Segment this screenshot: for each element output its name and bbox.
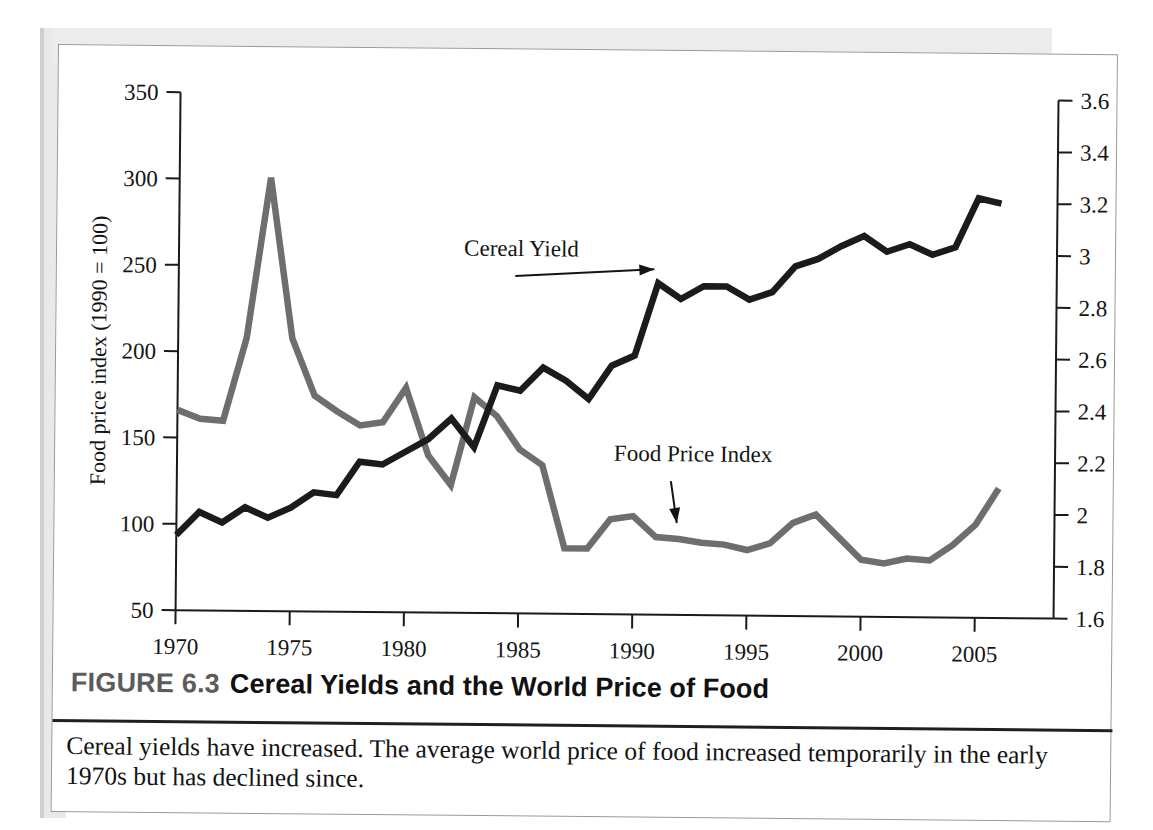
y-axis-left-tick-label: 200 — [121, 339, 156, 364]
y-axis-left-tick-label: 250 — [122, 252, 157, 277]
x-axis-tick-label: 1985 — [495, 637, 541, 662]
x-axis — [176, 610, 1054, 618]
y-axis-right-tick-label: 1.8 — [1076, 555, 1105, 580]
figure-title-row: FIGURE 6.3 Cereal Yields and the World P… — [71, 667, 1105, 721]
y-axis-left-tick-label: 50 — [130, 598, 153, 623]
x-axis-tick-label: 1995 — [723, 639, 769, 664]
y-axis-left-tick-labels: 50100150200250300350 — [119, 80, 159, 623]
annotation-arrowhead-food-price-index — [669, 507, 680, 523]
annotation-arrowhead-cereal-yield — [639, 264, 654, 275]
y-axis-left-tick-label: 100 — [120, 511, 155, 536]
y-axis-left-tick-label: 300 — [123, 166, 158, 191]
y-axis-right-tick-label: 1.6 — [1075, 607, 1104, 632]
annotation-arrow-cereal-yield — [515, 268, 654, 277]
chart-plot-area: 50100150200250300350 1.61.822.22.42.62.8… — [53, 45, 1119, 667]
y-axis-right-tick-label: 3.2 — [1079, 192, 1108, 217]
figure-number-label: FIGURE 6.3 — [71, 667, 220, 699]
x-axis-tick-label: 2005 — [951, 642, 997, 667]
x-axis-tick-label: 1980 — [380, 636, 426, 661]
x-axis-tick-label: 1990 — [609, 638, 655, 663]
y-axis-right-ticks — [1054, 101, 1073, 619]
figure-caption-block: FIGURE 6.3 Cereal Yields and the World P… — [52, 657, 1113, 823]
figure-title-rule — [52, 719, 1112, 732]
y-axis-left-tick-label: 350 — [124, 80, 159, 105]
y-axis-right-tick-label: 2.6 — [1078, 348, 1107, 373]
y-axis-right-tick-labels: 1.61.822.22.42.62.833.23.43.6 — [1075, 89, 1109, 632]
y-axis-right-tick-label: 3 — [1079, 244, 1091, 269]
x-axis-tick-label: 2000 — [837, 641, 883, 666]
figure-title: Cereal Yields and the World Price of Foo… — [230, 669, 769, 705]
y-axis-right-tick-label: 2.2 — [1077, 451, 1106, 476]
y-axis-right-tick-label: 2 — [1076, 503, 1088, 528]
x-axis-tick-label: 1970 — [152, 634, 198, 659]
annotation-label-food-price-index: Food Price Index — [614, 441, 773, 468]
y-axis-left-title: Food price index (1990 = 100) — [85, 215, 113, 485]
y-axis-right-tick-label: 2.8 — [1078, 296, 1107, 321]
figure-box: 50100150200250300350 1.61.822.22.42.62.8… — [51, 44, 1118, 822]
y-axis-right-tick-label: 3.6 — [1080, 89, 1109, 114]
scanned-page: 50100150200250300350 1.61.822.22.42.62.8… — [0, 0, 1153, 830]
y-axis-right-tick-label: 3.4 — [1080, 141, 1109, 166]
figure-caption-text: Cereal yields have increased. The averag… — [66, 731, 1099, 801]
y-axis-right-tick-label: 2.4 — [1077, 400, 1106, 425]
series-food-price-index — [176, 177, 1002, 565]
annotation-label-cereal-yield: Cereal Yield — [464, 235, 579, 261]
x-axis-tick-label: 1975 — [266, 635, 312, 660]
y-axis-left-tick-label: 150 — [121, 425, 156, 450]
line-chart: 50100150200250300350 1.61.822.22.42.62.8… — [53, 45, 1119, 667]
